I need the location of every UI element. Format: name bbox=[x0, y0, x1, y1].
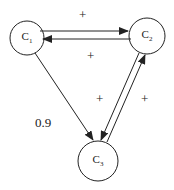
edge-label-right-plus: + bbox=[141, 92, 148, 105]
edge-label-middle-plus: + bbox=[87, 49, 94, 62]
edge-label-top-plus: + bbox=[79, 8, 86, 21]
edge-c2-c3 bbox=[101, 53, 139, 140]
edge-c3-c2 bbox=[107, 55, 145, 142]
node-c2-label: C2 bbox=[142, 29, 153, 43]
node-c3-label: C3 bbox=[93, 154, 104, 168]
edge-label-inner-plus: + bbox=[96, 92, 103, 105]
edge-label-weight: 0.9 bbox=[35, 116, 51, 129]
node-c1-label: C1 bbox=[22, 31, 33, 45]
